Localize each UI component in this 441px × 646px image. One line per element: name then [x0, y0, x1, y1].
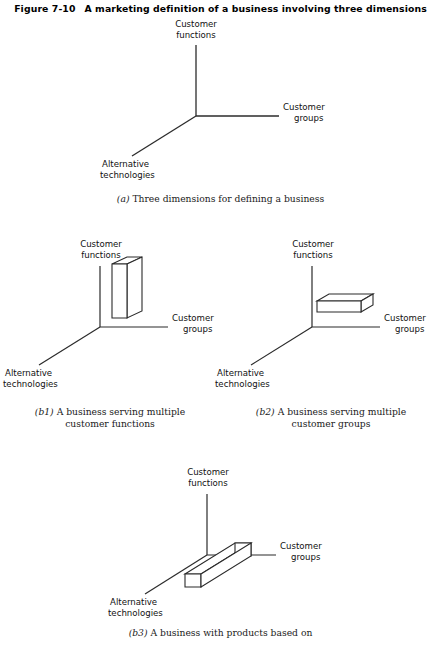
caption-panel-a-line1: Three dimensions for defining a business	[132, 193, 324, 204]
caption-panel-a-tag: (a)	[117, 193, 130, 204]
caption-panel-a: (a) Three dimensions for defining a busi…	[0, 193, 441, 205]
label-customer-functions-line2: functions	[61, 250, 141, 261]
label-customer-groups: Customer groups	[283, 102, 363, 123]
caption-panel-b1-tag-text: (b1)	[35, 406, 54, 417]
label-customer-groups-line1: Customer	[280, 541, 360, 552]
label-customer-functions-line2: functions	[156, 30, 236, 41]
label-customer-functions-line2: functions	[273, 250, 353, 261]
caption-panel-b1: (b1) A business serving multiple custome…	[0, 406, 220, 430]
label-customer-functions-line1: Customer	[273, 239, 353, 250]
label-customer-groups-line1: Customer	[283, 102, 363, 113]
label-alternative-technologies-line2: technologies	[100, 170, 190, 181]
box-horizontal-slab	[317, 294, 373, 312]
label-alternative-technologies-line2: technologies	[108, 608, 198, 619]
label-customer-functions: Customer functions	[156, 19, 236, 40]
label-customer-groups-line2: groups	[294, 113, 363, 124]
caption-panel-b1-line2: customer functions	[0, 418, 220, 430]
panel-b1: Customer functions Customer groups Alter…	[0, 235, 220, 405]
label-customer-functions-line2: functions	[168, 478, 248, 489]
axis-alternative-technologies	[132, 116, 196, 156]
label-customer-groups: Customer groups	[384, 313, 441, 334]
label-customer-functions: Customer functions	[273, 239, 353, 260]
label-alternative-technologies-line2: technologies	[215, 379, 305, 390]
box-depth-bar	[185, 543, 251, 587]
caption-panel-b3-tag-text: (b3)	[129, 627, 148, 638]
label-customer-functions-line1: Customer	[168, 467, 248, 478]
box-vertical-bar	[112, 257, 142, 318]
axis-alternative-technologies	[39, 327, 100, 365]
caption-panel-b1-line1: (b1) A business serving multiple	[0, 406, 220, 418]
label-customer-groups-line2: groups	[291, 552, 360, 563]
label-alternative-technologies: Alternative technologies	[108, 597, 198, 618]
caption-panel-b2-line2: customer groups	[221, 418, 441, 430]
label-alternative-technologies-line1: Alternative	[217, 368, 305, 379]
label-alternative-technologies-line1: Alternative	[102, 159, 190, 170]
label-customer-functions-line1: Customer	[61, 239, 141, 250]
caption-panel-b2-tag: (b2)	[256, 406, 275, 417]
caption-panel-b3: (b3) A business with products based on	[0, 627, 441, 639]
caption-panel-b3-line1: (b3) A business with products based on	[0, 627, 441, 639]
figure-number: Figure 7-10	[14, 3, 75, 14]
caption-panel-a-tag-text: (a)	[117, 193, 130, 204]
panel-b2: Customer functions Customer groups Alter…	[212, 235, 441, 405]
caption-panel-b2: (b2) A business serving multiple custome…	[221, 406, 441, 430]
caption-panel-b1-tag: (b1)	[35, 406, 54, 417]
label-alternative-technologies: Alternative technologies	[100, 159, 190, 180]
label-alternative-technologies: Alternative technologies	[3, 368, 93, 389]
label-customer-functions-line1: Customer	[156, 19, 236, 30]
caption-panel-b2-line1: (b2) A business serving multiple	[221, 406, 441, 418]
caption-panel-b3-tag: (b3)	[129, 627, 148, 638]
caption-panel-b3-text1: A business with products based on	[150, 627, 312, 638]
panel-a-axes	[0, 20, 441, 220]
caption-panel-b1-text1: A business serving multiple	[57, 406, 186, 417]
label-alternative-technologies-line1: Alternative	[110, 597, 198, 608]
panel-b3: Customer functions Customer groups Alter…	[106, 462, 356, 622]
label-customer-groups-line1: Customer	[384, 313, 441, 324]
axis-alternative-technologies	[251, 327, 312, 365]
figure-title-text: A marketing definition of a business inv…	[84, 3, 426, 14]
panel-a: Customer functions Customer groups Alter…	[0, 20, 441, 220]
label-alternative-technologies-line2: technologies	[3, 379, 93, 390]
label-customer-functions: Customer functions	[61, 239, 141, 260]
label-alternative-technologies: Alternative technologies	[215, 368, 305, 389]
label-customer-functions: Customer functions	[168, 467, 248, 488]
label-customer-groups-line2: groups	[395, 324, 441, 335]
label-customer-groups: Customer groups	[280, 541, 360, 562]
caption-panel-b2-text1: A business serving multiple	[278, 406, 407, 417]
caption-panel-b2-tag-text: (b2)	[256, 406, 275, 417]
figure-title: Figure 7-10A marketing definition of a b…	[0, 3, 441, 14]
label-alternative-technologies-line1: Alternative	[5, 368, 93, 379]
